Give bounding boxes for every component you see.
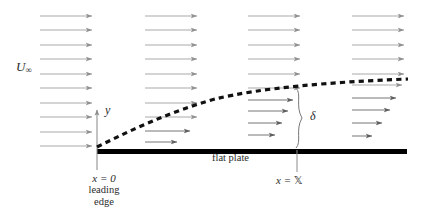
edge-word: edge [76,196,132,208]
origin-equation-text: x = 0 [92,172,115,184]
flat-plate-label: flat plate [212,152,249,164]
station-label: x = 𝕏 [276,174,302,187]
figure-canvas [0,0,423,222]
freestream-velocity-label: U∞ [16,60,32,75]
flat-plate [97,149,407,154]
station-prefix: x = [276,174,294,186]
freestream-symbol: U [16,59,25,74]
delta-curly-brace [296,88,302,148]
y-axis-label: y [105,104,110,117]
column-3-profile-at-station-X [248,16,300,135]
delta-brace [296,88,302,148]
column-4-thicker-profile [352,16,404,136]
column-2-developing-profile [145,16,197,142]
leading-edge-annotation: x = 0 leading edge [76,172,132,208]
column-1-uniform-freestream [40,16,92,146]
boundary-layer-figure: U∞ y δ flat plate x = 0 leading edge x =… [0,0,423,222]
origin-equation: x = 0 [76,172,132,184]
leading-word: leading [76,184,132,196]
boundary-thickness-label: δ [310,110,316,123]
station-value: 𝕏 [294,174,303,187]
boundary-layer-curve [97,79,408,147]
boundary-layer-dashed-curve [97,79,408,147]
plate-bar [97,149,407,154]
freestream-subscript: ∞ [25,65,32,75]
